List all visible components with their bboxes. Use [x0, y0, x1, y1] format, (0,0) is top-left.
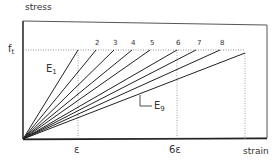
- line-number-4: 4: [131, 40, 135, 47]
- modulus-line-2: [23, 50, 96, 139]
- e9-subscript: 9: [160, 105, 164, 113]
- line-number-8: 8: [220, 40, 224, 47]
- e9-label: E9: [154, 101, 165, 113]
- line-number-5: 5: [150, 40, 154, 47]
- line-number-2: 2: [95, 40, 99, 47]
- x-axis: [23, 139, 267, 140]
- y-axis-label: stress: [25, 3, 52, 12]
- ft-subscript: t: [12, 48, 15, 56]
- line-number-6: 6: [176, 40, 180, 47]
- ft-label: ft: [8, 44, 14, 56]
- six-epsilon-tick-label: 6ε: [169, 145, 181, 155]
- e1-subscript: 1: [52, 68, 56, 76]
- epsilon-tick-label: ε: [74, 145, 79, 155]
- line-number-7: 7: [197, 40, 201, 47]
- line-number-3: 3: [113, 40, 117, 47]
- e1-label: E1: [46, 64, 57, 76]
- x-axis-label: strain: [243, 147, 269, 156]
- modulus-line-5: [23, 50, 150, 139]
- stress-strain-diagram: [0, 0, 280, 166]
- modulus-line-4: [23, 50, 132, 139]
- e9-leader: [140, 95, 152, 106]
